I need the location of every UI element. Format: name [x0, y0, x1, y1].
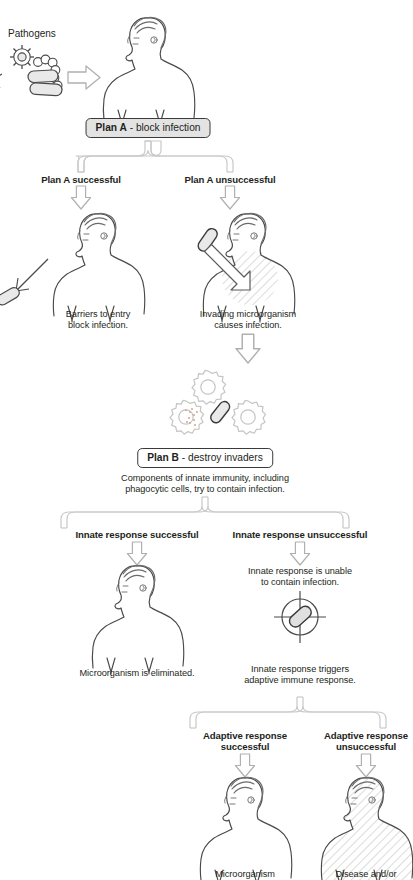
branch-label-adaptive-unsuccessful-line1: Adaptive response	[324, 730, 408, 741]
branch-label-adaptive-successful-line2: successful	[221, 741, 270, 752]
branch-brace-planA	[76, 141, 233, 172]
human-figure-adaptive-success	[200, 777, 292, 880]
caption-plan-b-line2: phagocytic cells, try to contain infecti…	[125, 484, 285, 495]
caption-barriers-line1: Barriers to entry	[66, 309, 131, 320]
branch-label-plan-a-successful: Plan A successful	[41, 174, 121, 185]
branch-label-adaptive-successful-line1: Adaptive response	[203, 730, 287, 741]
rod-bacterium-icon	[0, 70, 62, 96]
plan-b-box-name: Plan B	[147, 452, 179, 463]
human-figure-adaptive-fail	[321, 777, 413, 880]
block-arrow-innate-success	[127, 542, 146, 565]
caption-plan-b-line1: Components of innate immunity, including	[121, 473, 289, 484]
diagram-canvas: Pathogens Plan A - block infection Plan …	[0, 0, 413, 880]
caption-invading-line2: causes infection.	[214, 320, 282, 331]
phagocyte-cell-granular-icon	[170, 400, 204, 434]
branch-brace-adaptive	[190, 697, 386, 728]
block-arrow-adaptive-fail	[356, 754, 375, 777]
plan-a-box-name: Plan A	[96, 122, 127, 133]
human-figure-top	[103, 17, 195, 126]
caption-barriers-line2: block infection.	[68, 320, 128, 331]
engulfed-rod-bacterium-icon	[209, 399, 232, 424]
branch-label-innate-successful: Innate response successful	[75, 529, 198, 540]
deflected-rod-bacterium-icon	[0, 286, 21, 307]
plan-b-box-rest: - destroy invaders	[179, 452, 263, 463]
branch-label-innate-unsuccessful: Innate response unsuccessful	[233, 529, 368, 540]
infected-human-figure	[203, 213, 295, 322]
caption-invading-line1: Invading microorganism	[200, 309, 296, 320]
block-arrow-planA-fail	[220, 186, 239, 209]
branch-label-plan-a-unsuccessful: Plan A unsuccessful	[184, 174, 275, 185]
block-arrow-to-phagocytes	[236, 334, 260, 363]
plan-b-box: Plan B - destroy invaders	[137, 448, 273, 468]
branch-brace-planB	[61, 497, 349, 528]
plan-a-box: Plan A - block infection	[86, 118, 211, 138]
plan-a-box-rest: - block infection	[127, 122, 201, 133]
block-arrow-adaptive-success	[235, 754, 254, 777]
virus-icon	[10, 45, 34, 69]
block-arrow-innate-fail	[290, 542, 309, 565]
caption-innate-triggers-line1: Innate response triggers	[251, 664, 349, 675]
human-figure-eliminated	[92, 565, 184, 674]
phagocyte-cell-icon-2	[232, 400, 266, 434]
caption-innate-triggers-line2: adaptive immune response.	[244, 675, 356, 686]
deflected-pathogen-arrow-icon	[16, 259, 48, 291]
block-arrow-planA-success	[71, 186, 90, 209]
branch-label-adaptive-unsuccessful-line2: unsuccessful	[336, 741, 396, 752]
phagocyte-cell-icon	[192, 370, 226, 404]
targeted-rod-bacterium-icon	[287, 604, 314, 630]
phagocyte-cluster	[170, 370, 266, 434]
caption-innate-unable-line2: to contain infection.	[261, 577, 339, 588]
caption-adaptive-fail: Disease and/or	[335, 869, 396, 880]
block-arrow-right-icon	[68, 66, 100, 89]
human-figure-barriers	[53, 213, 145, 322]
caption-adaptive-success: Microorganism	[215, 869, 275, 880]
pathogens-label: Pathogens	[8, 28, 56, 40]
caption-innate-unable-line1: Innate response is unable	[248, 566, 352, 577]
caption-microorganism-eliminated: Microorganism is eliminated.	[79, 668, 194, 679]
